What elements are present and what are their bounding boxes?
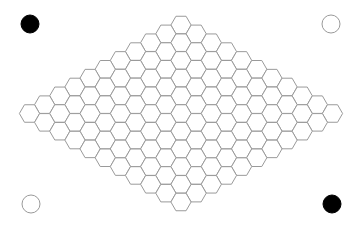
black-stone-bottom-right-icon: [323, 195, 341, 213]
black-stone-top-left-icon: [21, 15, 39, 33]
white-stone-bottom-left-icon: [22, 195, 40, 213]
board-canvas: [0, 0, 359, 225]
white-stone-top-right-icon: [322, 15, 340, 33]
hex-cells-layer: [19, 16, 342, 211]
hex-cell[interactable]: [171, 193, 191, 211]
hex-game-board: [0, 0, 359, 225]
